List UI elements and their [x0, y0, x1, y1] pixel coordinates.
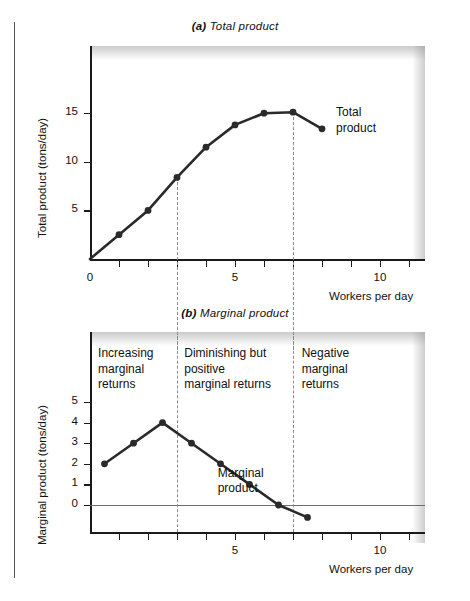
region-label-1: Increasing marginal returns — [98, 346, 153, 393]
marginal-product-curve-point — [130, 440, 137, 447]
marginal-product-curve-point — [304, 514, 311, 521]
total-product-series-label: Total product — [336, 105, 376, 136]
marginal-product-curve-point — [159, 419, 166, 426]
figure-container: (a) Total product Total product (tons/da… — [0, 0, 470, 601]
marginal-product-curve-point — [275, 502, 282, 509]
region-label-3: Negative marginal returns — [302, 346, 349, 393]
marginal-product-curve-point — [188, 440, 195, 447]
marginal-product-curve — [0, 0, 470, 601]
marginal-product-curve-point — [101, 460, 108, 467]
region-label-2: Diminishing but positive marginal return… — [184, 346, 271, 393]
marginal-product-series-label: Marginal product — [218, 466, 264, 497]
